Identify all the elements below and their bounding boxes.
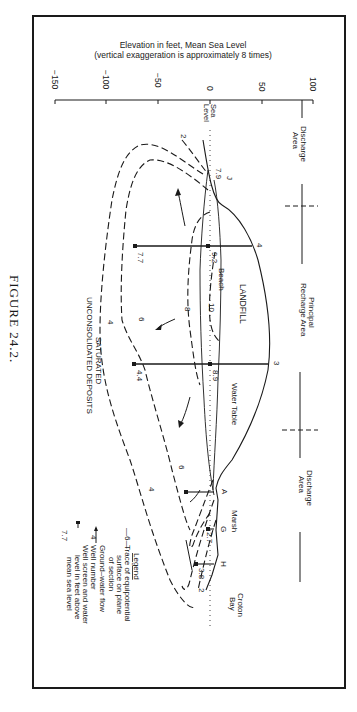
well-3-deep-level: 4.4 — [135, 370, 144, 382]
figure-caption: FIGURE 24.2. — [7, 275, 22, 363]
tick-label: −50 — [153, 73, 163, 88]
legend-well-number-symbol: 4 — [89, 535, 98, 540]
well-number-3: 3 — [272, 361, 281, 366]
tick-label: 0 — [205, 86, 215, 91]
contour-label-6: 6 — [137, 317, 146, 322]
contour-label-10: 10 — [207, 303, 216, 312]
well-number-g: G — [219, 526, 228, 532]
well-g-level: 2.7 — [205, 532, 214, 544]
legend-equipotential-line3: of section — [107, 557, 116, 591]
contour-label-2-top: 2 — [179, 134, 188, 139]
zone-indicators: Discharge Area Principal Recharge Area D… — [282, 100, 318, 582]
water-table-label: Water Table — [230, 383, 239, 426]
equipotential-contours — [100, 140, 220, 608]
well-4-deep-screen — [133, 244, 137, 248]
legend-well-screen-marker — [76, 521, 80, 524]
well-3-shallow-screen — [208, 362, 212, 366]
discharge-area-right-label-2: Area — [297, 476, 306, 493]
well-4-shallow-screen — [206, 244, 210, 248]
well-3-shallow-level: 8.9 — [211, 370, 220, 382]
legend-title: Legend — [132, 553, 141, 580]
flow-arrow — [186, 540, 192, 570]
well-4-shallow-level: 9.2 — [210, 252, 219, 264]
well-a-screen — [184, 490, 188, 494]
well-h-screen — [194, 562, 198, 566]
contour-label-6: 6 — [177, 465, 186, 470]
landfill-label: LANDFILL — [238, 284, 248, 324]
groundwater-flow-arrows — [155, 188, 200, 570]
landfill-base-line — [213, 180, 221, 490]
well-3-deep-screen — [132, 362, 136, 366]
tick-label: 50 — [257, 82, 267, 92]
level-label: Level — [202, 104, 211, 122]
elevation-axis: Elevation in feet, Mean Sea Level (verti… — [50, 40, 318, 122]
well-j-level: 7.9 — [214, 168, 223, 180]
legend-well-level-symbol: 7.7 — [60, 530, 69, 542]
well-4-deep-level: 7.7 — [136, 252, 145, 264]
axis-title-line2: (vertical exaggeration is approximately … — [94, 50, 272, 60]
tick-label: −100 — [101, 70, 111, 89]
arrow-head — [155, 324, 162, 330]
contour-label-4: 4 — [106, 320, 115, 325]
contour-label-8: 8 — [183, 307, 192, 312]
well-number-a: A — [220, 489, 229, 495]
bay-label: Bay — [228, 597, 237, 611]
tick-label: 100 — [308, 77, 318, 91]
arrow-head — [175, 188, 181, 196]
tick-label: −150 — [50, 70, 60, 89]
groundwater-cross-section-diagram: FIGURE 24.2. Elevation in feet, Mean Sea… — [0, 0, 357, 712]
flow-arrow — [180, 397, 190, 425]
axis-title-line1: Elevation in feet, Mean Sea Level — [120, 40, 247, 50]
marsh-label: Marsh — [230, 510, 239, 532]
legend: Legend —6— Trace of equipotential surfac… — [60, 521, 141, 624]
well-h-level: 3.8 — [197, 568, 206, 580]
well-g-screen — [206, 527, 210, 531]
discharge-area-left-label-2: Area — [291, 132, 300, 149]
recharge-label-2: Recharge Area — [299, 283, 308, 337]
legend-arrow-head — [94, 526, 98, 531]
water-table-line — [200, 170, 214, 495]
legend-well-screen-line3: mean sea level — [65, 557, 74, 611]
arrow-head — [178, 420, 184, 428]
well-number-h: H — [219, 561, 228, 567]
contour-10 — [209, 252, 220, 342]
flow-arrow — [178, 192, 185, 226]
saturated-label: SATURATED — [94, 337, 103, 384]
contour-label-2-bottom: 2 — [197, 588, 206, 593]
contour-8 — [188, 212, 210, 385]
well-number-4: 4 — [255, 243, 264, 248]
beach-label: Beach — [217, 268, 226, 291]
unconsolidated-deposits-label: UNCONSOLIDATED DEPOSITS — [85, 297, 94, 414]
contour-4-outer — [100, 144, 203, 607]
legend-flow-label: Ground–water flow — [98, 545, 107, 612]
contour-label-4: 4 — [147, 487, 156, 492]
well-number-j: J — [225, 176, 234, 180]
